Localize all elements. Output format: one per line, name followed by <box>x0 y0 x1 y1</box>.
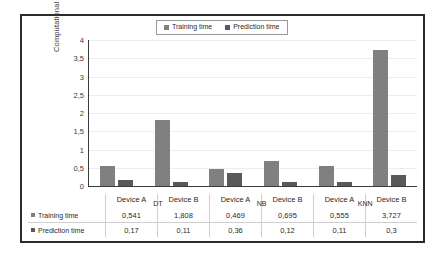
bar-training-time <box>209 169 224 186</box>
bar-training-time <box>264 161 279 186</box>
bar-training-time <box>373 50 388 186</box>
plot-area <box>88 40 417 187</box>
table-rowhead-label-prediction-time: Prediction time <box>38 227 84 234</box>
bar-group <box>144 40 199 186</box>
legend-label-prediction-time: Prediction time <box>233 23 279 31</box>
chart-frame: Training time Prediction time Computatio… <box>20 14 425 243</box>
legend-swatch-prediction-time <box>225 25 230 30</box>
chart-legend: Training time Prediction time <box>156 20 288 35</box>
value-cell: 0,36 <box>210 223 262 237</box>
bar-prediction-time <box>282 182 297 186</box>
bar-prediction-time <box>173 182 188 186</box>
y-tick-label: 2 <box>80 109 84 118</box>
category-cell: Device A <box>210 194 262 208</box>
table-row-training-time: Training time 0,5411,8080,4690,6950,5553… <box>28 208 417 223</box>
y-tick-label: 3,5 <box>74 54 84 63</box>
table-row-prediction-time: Prediction time 0,170,110,360,120,110,3 <box>28 223 417 237</box>
legend-item-prediction-time: Prediction time <box>225 23 279 31</box>
plot-region: Computational cost (s) 43,532,521,510,50 <box>22 16 423 188</box>
y-axis-title: Computational cost (s) <box>52 0 61 52</box>
bar-prediction-time <box>227 173 242 186</box>
value-cell: 0,17 <box>106 223 158 237</box>
data-table: Device ADevice BDevice ADevice BDevice A… <box>28 194 417 237</box>
prediction-time-value-cells: 0,170,110,360,120,110,3 <box>106 223 417 237</box>
y-tick-label: 3 <box>80 72 84 81</box>
category-cell: Device A <box>314 194 366 208</box>
y-tick-label: 2,5 <box>74 90 84 99</box>
value-cell: 0,11 <box>158 223 210 237</box>
table-corner-cell <box>28 194 106 208</box>
value-cell: 0,11 <box>314 223 366 237</box>
bar-training-time <box>100 166 115 186</box>
table-rowhead-label-training-time: Training time <box>38 212 78 219</box>
value-cell: 3,727 <box>366 208 417 222</box>
table-rowhead-training-time: Training time <box>28 208 106 222</box>
category-cell: Device A <box>106 194 158 208</box>
bar-group <box>308 40 363 186</box>
value-cell: 0,12 <box>262 223 314 237</box>
bar-group <box>198 40 253 186</box>
bar-training-time <box>319 166 334 186</box>
bar-prediction-time <box>118 180 133 186</box>
value-cell: 1,808 <box>158 208 210 222</box>
bar-prediction-time <box>337 182 352 186</box>
table-swatch-prediction-time <box>31 228 35 232</box>
y-tick-label: 0 <box>80 182 84 191</box>
y-tick-label: 1 <box>80 145 84 154</box>
bar-group <box>89 40 144 186</box>
value-cell: 0,695 <box>262 208 314 222</box>
value-cell: 0,555 <box>314 208 366 222</box>
table-row-categories: Device ADevice BDevice ADevice BDevice A… <box>28 194 417 208</box>
y-axis-tick-labels: 43,532,521,510,50 <box>62 40 84 186</box>
category-cell: Device B <box>366 194 417 208</box>
value-cell: 0,3 <box>366 223 417 237</box>
y-tick-label: 0,5 <box>74 163 84 172</box>
bar-training-time <box>155 120 170 186</box>
bar-group <box>362 40 417 186</box>
legend-label-training-time: Training time <box>172 23 212 31</box>
category-cell: Device B <box>262 194 314 208</box>
value-cell: 0,541 <box>106 208 158 222</box>
bar-group <box>253 40 308 186</box>
bar-prediction-time <box>391 175 406 186</box>
category-cells: Device ADevice BDevice ADevice BDevice A… <box>106 194 417 208</box>
legend-swatch-training-time <box>164 25 169 30</box>
value-cell: 0,469 <box>210 208 262 222</box>
table-swatch-training-time <box>31 213 35 217</box>
y-tick-label: 1,5 <box>74 127 84 136</box>
training-time-value-cells: 0,5411,8080,4690,6950,5553,727 <box>106 208 417 222</box>
category-cell: Device B <box>158 194 210 208</box>
bars-layer <box>89 40 417 186</box>
y-tick-label: 4 <box>80 36 84 45</box>
table-rowhead-prediction-time: Prediction time <box>28 223 106 237</box>
legend-item-training-time: Training time <box>164 23 212 31</box>
